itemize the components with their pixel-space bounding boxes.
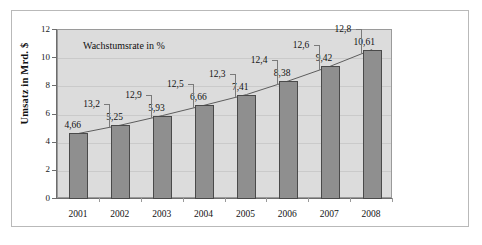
bar-2007[interactable] [321, 66, 340, 199]
leader-v-2006 [319, 45, 320, 70]
x-tick-label-2002: 2002 [102, 209, 138, 219]
y-tick-label-6: 6 [20, 109, 50, 118]
x-tick-mark-8 [392, 198, 393, 202]
x-tick-label-2008: 2008 [353, 209, 389, 219]
growth-label-2002: 12,9 [125, 90, 142, 100]
y-tick-label-4: 4 [20, 137, 50, 146]
growth-label-2003: 12,5 [167, 79, 184, 89]
leader-v-2002 [151, 95, 152, 119]
bar-2006[interactable] [279, 81, 298, 199]
y-tick-label-10: 10 [20, 53, 50, 62]
x-tick-label-2004: 2004 [186, 209, 222, 219]
x-tick-mark-3 [183, 198, 184, 202]
x-axis-line [52, 198, 393, 199]
x-tick-mark-4 [225, 198, 226, 202]
gridline-4 [58, 143, 391, 144]
x-tick-label-2006: 2006 [269, 209, 305, 219]
x-tick-mark-2 [141, 198, 142, 202]
y-tick-mark-0 [52, 198, 57, 199]
leader-v-2004 [235, 74, 236, 98]
y-axis-tick-labels: 12 10 8 6 4 2 0 [18, 0, 50, 245]
leader-v-2003 [193, 84, 194, 108]
bar-value-2008: 10,61 [354, 37, 375, 47]
bar-2008[interactable] [363, 50, 382, 199]
leader-v-2005 [277, 60, 278, 85]
x-tick-mark-1 [99, 198, 100, 202]
x-tick-mark-6 [308, 198, 309, 202]
y-tick-label-2: 2 [20, 165, 50, 174]
gridline-2 [58, 171, 391, 172]
growth-label-2004: 12,3 [209, 69, 226, 79]
growth-label-2005: 12,4 [251, 55, 268, 65]
x-tick-mark-7 [350, 198, 351, 202]
x-tick-mark-5 [266, 198, 267, 202]
growth-label-2001: 13,2 [83, 99, 100, 109]
y-tick-label-0: 0 [20, 194, 50, 203]
gridline-10 [58, 58, 391, 59]
gridline-8 [58, 86, 391, 87]
growth-label-2006: 12,6 [293, 40, 310, 50]
bar-2003[interactable] [153, 116, 172, 200]
chart-figure: Umsatz in Mrd. $ 12 10 8 6 4 2 0 [0, 0, 482, 245]
plot-area: Wachstumsrate in % 4,66 5,25 5,93 6,66 7… [57, 29, 392, 198]
y-tick-label-12: 12 [20, 25, 50, 34]
bar-2005[interactable] [237, 95, 256, 199]
growth-label-2007: 12,8 [335, 24, 352, 34]
bar-2004[interactable] [195, 105, 214, 199]
bar-2001[interactable] [69, 133, 88, 199]
leader-v-2007 [361, 29, 362, 55]
growth-rate-note: Wachstumsrate in % [83, 40, 165, 51]
bar-value-2001: 4,66 [64, 120, 81, 130]
bar-2002[interactable] [111, 125, 130, 199]
y-tick-label-8: 8 [20, 81, 50, 90]
x-tick-label-2007: 2007 [311, 209, 347, 219]
x-tick-label-2001: 2001 [60, 209, 96, 219]
x-tick-label-2005: 2005 [227, 209, 263, 219]
x-tick-label-2003: 2003 [144, 209, 180, 219]
leader-v-2001 [109, 104, 110, 127]
